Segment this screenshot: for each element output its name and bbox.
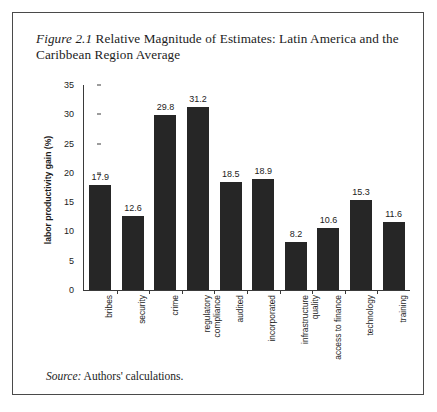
source-note: Source: Authors' calculations. [46, 370, 183, 382]
bar [383, 222, 405, 290]
bar-value-label: 8.2 [290, 229, 303, 239]
chart-area: labor productivity gain (%) 051015202530… [31, 85, 411, 315]
x-axis-category-label: crime [170, 295, 183, 365]
source-label: Source: [46, 370, 81, 382]
bar-value-label: 17.9 [92, 172, 110, 182]
bar-value-label: 15.3 [352, 187, 370, 197]
y-axis-tick-label: 25 [64, 139, 74, 149]
y-axis-tick-label: 5 [69, 256, 74, 266]
bar-value-label: 12.6 [124, 203, 142, 213]
y-axis-tick-label: 0 [69, 285, 74, 295]
bar-value-label: 18.9 [255, 166, 273, 176]
y-axis-tick-label: 35 [64, 80, 74, 90]
y-axis-tick-label: 20 [64, 168, 74, 178]
x-axis-tick-mark [182, 290, 183, 294]
figure-frame: Figure 2.1 Relative Magnitude of Estimat… [12, 12, 424, 395]
y-axis-tick-label: 10 [64, 226, 74, 236]
x-axis-tick-mark [312, 290, 313, 294]
bar-value-label: 31.2 [189, 94, 207, 104]
bar-group: 18.9 [247, 85, 280, 290]
bar-value-label: 29.8 [157, 102, 175, 112]
bar [317, 228, 339, 290]
x-axis-category-label: regulatory compliance [203, 295, 223, 365]
x-axis-tick-mark [149, 290, 150, 294]
y-axis-tick-label: 30 [64, 109, 74, 119]
bar-group: 18.5 [214, 85, 247, 290]
x-axis-category-label: incorporated [267, 295, 280, 365]
source-text: Authors' calculations. [81, 370, 183, 382]
bar [89, 185, 111, 290]
figure-number: Figure 2.1 [36, 31, 92, 46]
x-axis-tick-mark [345, 290, 346, 294]
bar [187, 107, 209, 290]
x-axis-tick-mark [377, 290, 378, 294]
x-axis-category-label: audited [235, 295, 248, 365]
bar-group: 12.6 [117, 85, 150, 290]
bar-group: 31.2 [182, 85, 215, 290]
x-axis-category-label: access to finance [334, 295, 354, 365]
bar [154, 115, 176, 290]
bar-value-label: 11.6 [385, 209, 402, 219]
x-axis-tick-mark [214, 290, 215, 294]
x-axis-category-label: training [398, 295, 411, 365]
y-axis-tick-labels: 05101520253035 [49, 85, 79, 290]
x-axis-category-label: infrastructure quality [301, 295, 321, 365]
bar-group: 29.8 [149, 85, 182, 290]
bar [220, 182, 242, 290]
figure-title: Figure 2.1 Relative Magnitude of Estimat… [36, 31, 404, 62]
bars-plot-area: 17.912.629.831.218.518.98.210.615.311.6 [84, 85, 410, 290]
bar [252, 179, 274, 290]
bar-group: 15.3 [345, 85, 378, 290]
bar [122, 216, 144, 290]
x-axis-category-label: bribes [104, 295, 117, 365]
bar-group: 11.6 [377, 85, 410, 290]
x-axis-tick-mark [247, 290, 248, 294]
x-axis-category-labels: bribessecuritycrimeregulatory compliance… [84, 295, 410, 367]
bar-value-label: 10.6 [320, 215, 338, 225]
bar-value-label: 18.5 [222, 169, 240, 179]
bar [285, 242, 307, 290]
bar [350, 200, 372, 290]
x-axis-category-label: security [137, 295, 150, 365]
y-axis-tick-label: 15 [64, 197, 74, 207]
x-axis-category-label: technology [365, 295, 378, 365]
x-axis-tick-mark [280, 290, 281, 294]
bar-group: 17.9 [84, 85, 117, 290]
x-axis-tick-mark [117, 290, 118, 294]
bar-group: 10.6 [312, 85, 345, 290]
bar-group: 8.2 [280, 85, 313, 290]
